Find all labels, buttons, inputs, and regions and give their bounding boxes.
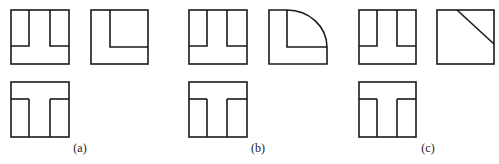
figure-b-top-view xyxy=(189,82,247,137)
figure-a-top-view xyxy=(11,82,69,137)
figure-c-side-view xyxy=(437,10,494,64)
figure-c-front-view xyxy=(359,10,416,64)
figure-b-side-view xyxy=(269,10,327,64)
figure-a-front-view xyxy=(11,10,69,64)
figure-b-front-view xyxy=(189,10,247,64)
figure-b-label: (b) xyxy=(251,141,265,156)
figure-c-top-view xyxy=(359,82,416,137)
three-view-drawings xyxy=(0,0,499,164)
figure-c-label: (c) xyxy=(421,141,434,156)
figure-a-side-view xyxy=(91,10,148,64)
figure-a-label: (a) xyxy=(73,141,86,156)
